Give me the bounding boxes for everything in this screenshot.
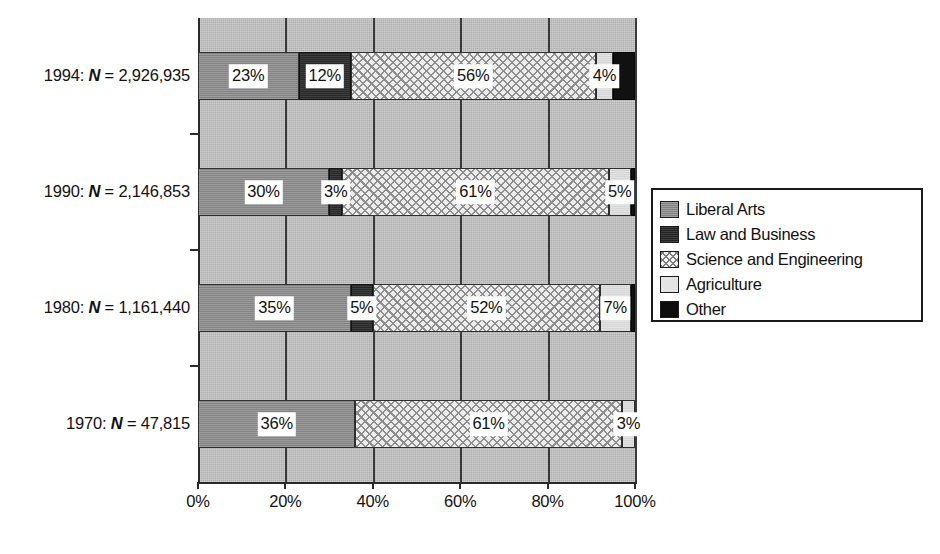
bar-segment-liberal: 36% — [198, 400, 355, 448]
bar-segment-value-label: 56% — [454, 64, 492, 88]
x-tick-40 — [372, 482, 374, 489]
legend-item-law[interactable]: Law and Business — [660, 222, 921, 247]
x-tick-label-40: 40% — [357, 492, 389, 511]
bar-segment-value-label: 52% — [467, 296, 505, 320]
bar-segment-sci: 56% — [351, 52, 596, 100]
legend-item-label: Law and Business — [686, 225, 815, 244]
legend-item-other[interactable]: Other — [660, 297, 921, 322]
x-tick-label-80: 80% — [531, 492, 563, 511]
x-tick-60 — [459, 482, 461, 489]
bar-segment-value-label: 3% — [614, 412, 643, 436]
y-category-label-1994: 1994: N = 2,926,935 — [0, 66, 190, 85]
bar-segment-law: 5% — [351, 284, 373, 332]
x-tick-100 — [634, 482, 636, 489]
y-category-label-1980: 1980: N = 1,161,440 — [0, 298, 190, 317]
bar-segment-agri: 5% — [609, 168, 631, 216]
legend-item-label: Other — [686, 300, 726, 319]
bar-segment-law: 12% — [299, 52, 351, 100]
legend-item-sci[interactable]: Science and Engineering — [660, 247, 921, 272]
bar-segment-value-label: 4% — [590, 64, 619, 88]
x-tick-label-20: 20% — [269, 492, 301, 511]
y-category-label-1990: 1990: N = 2,146,853 — [0, 182, 190, 201]
bar-segment-law: 3% — [329, 168, 342, 216]
bar-segment-value-label: 61% — [456, 180, 494, 204]
bar-segment-value-label: 7% — [601, 296, 630, 320]
bar-segment-sci: 61% — [342, 168, 609, 216]
y-tick-3 — [190, 365, 198, 367]
bar-segment-liberal: 30% — [198, 168, 329, 216]
bar-segment-sci: 61% — [355, 400, 622, 448]
legend-swatch-icon — [660, 276, 679, 293]
bar-segment-agri: 3% — [622, 400, 635, 448]
bar-segment-value-label: 35% — [255, 296, 293, 320]
legend-item-liberal[interactable]: Liberal Arts — [660, 197, 921, 222]
bar-row: 35%5%52%7% — [198, 284, 635, 332]
bar-segment-liberal: 23% — [198, 52, 299, 100]
x-tick-label-100: 100% — [614, 492, 655, 511]
bar-segment-value-label: 23% — [229, 64, 267, 88]
bar-segment-sci: 52% — [373, 284, 600, 332]
bar-segment-value-label: 61% — [469, 412, 507, 436]
bar-row: 30%3%61%5% — [198, 168, 635, 216]
bar-segment-value-label: 5% — [347, 296, 376, 320]
legend-swatch-icon — [660, 226, 679, 243]
legend-swatch-icon — [660, 201, 679, 218]
legend-item-label: Science and Engineering — [686, 250, 863, 269]
legend-item-agri[interactable]: Agriculture — [660, 272, 921, 297]
legend-swatch-icon — [660, 251, 679, 268]
legend-swatch-icon — [660, 301, 679, 318]
x-tick-label-60: 60% — [444, 492, 476, 511]
legend-item-label: Agriculture — [686, 275, 762, 294]
legend-item-label: Liberal Arts — [686, 200, 765, 219]
bar-segment-value-label: 30% — [244, 180, 282, 204]
x-tick-20 — [284, 482, 286, 489]
bar-segment-agri: 7% — [600, 284, 631, 332]
x-tick-0 — [197, 482, 199, 489]
bar-segment-value-label: 5% — [605, 180, 634, 204]
stacked-bar-chart-figure: 0%20%40%60%80%100% 23%12%56%4%30%3%61%5%… — [0, 0, 940, 554]
bar-segment-other — [631, 284, 635, 332]
x-axis-line — [198, 482, 637, 484]
bar-segment-liberal: 35% — [198, 284, 351, 332]
bar-row: 23%12%56%4% — [198, 52, 635, 100]
bar-segment-value-label: 3% — [321, 180, 350, 204]
bar-segment-agri: 4% — [596, 52, 613, 100]
bar-segment-value-label: 36% — [257, 412, 295, 436]
chart-legend: Liberal ArtsLaw and BusinessScience and … — [651, 188, 923, 322]
x-tick-label-0: 0% — [186, 492, 209, 511]
y-tick-1 — [190, 133, 198, 135]
y-tick-2 — [190, 249, 198, 251]
bar-segment-value-label: 12% — [306, 64, 344, 88]
y-category-label-1970: 1970: N = 47,815 — [0, 414, 190, 433]
x-tick-80 — [547, 482, 549, 489]
bar-row: 36%61%3% — [198, 400, 635, 448]
